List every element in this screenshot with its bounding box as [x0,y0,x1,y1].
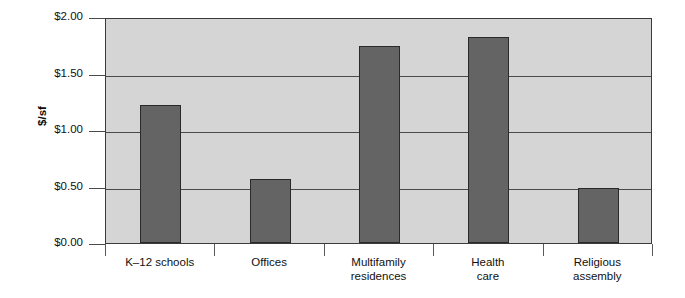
bar [468,37,509,243]
bar [578,188,619,243]
y-axis-tick-label: $1.50 [23,67,83,79]
x-axis-label-line: K–12 schools [125,256,194,268]
x-axis-label: K–12 schools [105,256,214,270]
x-axis-label: Healthcare [433,256,542,283]
y-axis-tick-label: $1.00 [23,123,83,135]
x-axis-label-line: Religious [574,256,621,268]
x-axis-tick-mark [543,244,544,256]
bar [359,46,400,243]
y-axis-tick-mark [89,131,105,132]
x-axis-label-line: care [433,270,542,284]
x-axis-tick-mark [324,244,325,256]
x-axis-label-line: Multifamily [351,256,405,268]
plot-area [105,18,652,244]
y-axis-tick-mark [89,75,105,76]
x-axis-tick-mark [214,244,215,256]
x-axis-tick-mark [105,244,106,256]
bar-chart: $/sf $2.00$1.50$1.00$0.50$0.00 K–12 scho… [0,0,685,298]
y-axis-tick-label: $2.00 [23,10,83,22]
y-axis-tick-mark [89,188,105,189]
x-axis-label-line: assembly [543,270,652,284]
y-axis-tick-mark [89,18,105,19]
x-axis-label: Offices [214,256,323,270]
x-axis-label-line: Health [471,256,504,268]
bar [140,105,181,243]
y-axis-tick-label: $0.00 [23,236,83,248]
x-axis-tick-mark [433,244,434,256]
bar [250,179,291,243]
x-axis-label: Religiousassembly [543,256,652,283]
y-axis-tick-label: $0.50 [23,180,83,192]
x-axis-label-line: residences [324,270,433,284]
y-axis-tick-mark [89,244,105,245]
x-axis-tick-mark [652,244,653,256]
x-axis-label: Multifamilyresidences [324,256,433,283]
x-axis-label-line: Offices [251,256,287,268]
